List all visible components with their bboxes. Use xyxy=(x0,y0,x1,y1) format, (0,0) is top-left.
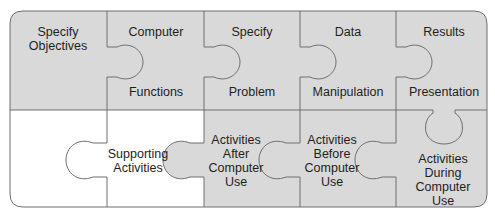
piece-specify-objectives: Specify Objectives xyxy=(29,25,87,53)
piece-activities-before: Activities Before Computer Use xyxy=(305,133,360,189)
label-line: Activities xyxy=(416,152,471,166)
label-line: Computer xyxy=(416,180,471,194)
label-line: During xyxy=(416,166,471,180)
label-line: Activities xyxy=(209,133,264,147)
label-line: Use xyxy=(305,175,360,189)
label-line: Use xyxy=(416,194,471,208)
piece-data-manipulation-top: Data xyxy=(335,25,361,39)
puzzle-diagram: Specify Objectives Computer Functions Sp… xyxy=(0,0,495,213)
seam-bottom-1 xyxy=(66,110,107,207)
after-knob-fill xyxy=(163,141,204,179)
label-line: Objectives xyxy=(29,39,87,53)
label-line: After xyxy=(209,147,264,161)
piece-supporting-activities: Supporting Activities xyxy=(108,147,168,175)
label-line: Supporting xyxy=(108,147,168,161)
piece-data-manipulation-bottom: Manipulation xyxy=(313,85,384,99)
piece-activities-during: Activities During Computer Use xyxy=(416,152,471,208)
piece-computer-functions-bottom: Functions xyxy=(129,85,183,99)
piece-activities-after: Activities After Computer Use xyxy=(209,133,264,189)
piece-computer-functions-top: Computer xyxy=(129,25,184,39)
label-line: Activities xyxy=(108,161,168,175)
label-line: Use xyxy=(209,175,264,189)
piece-results-presentation-bottom: Presentation xyxy=(409,85,479,99)
piece-specify-problem-top: Specify xyxy=(232,25,273,39)
label-line: Computer xyxy=(209,161,264,175)
label-line: Computer xyxy=(305,161,360,175)
piece-results-presentation-top: Results xyxy=(423,25,465,39)
piece-specify-problem-bottom: Problem xyxy=(229,85,276,99)
label-line: Before xyxy=(305,147,360,161)
label-line: Activities xyxy=(305,133,360,147)
label-line: Specify xyxy=(29,25,87,39)
